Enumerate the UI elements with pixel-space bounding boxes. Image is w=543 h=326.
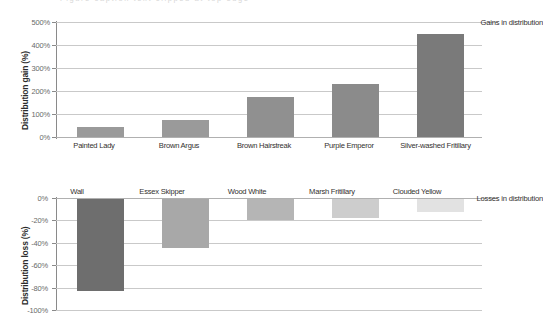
gains-plot-area xyxy=(56,22,482,138)
losses-ytick-80: -80% xyxy=(12,284,48,293)
gains-ytick-200: 200% xyxy=(14,87,50,96)
gains-legend-label: Gains in distribution xyxy=(419,18,543,27)
losses-ytick-60: -60% xyxy=(12,261,48,270)
bar-wood-white xyxy=(247,199,294,220)
gains-gridline-0 xyxy=(56,137,482,138)
gains-ytick-400: 400% xyxy=(14,41,50,50)
bar-brown-hairstreak xyxy=(247,97,294,137)
bar-wall xyxy=(77,199,124,291)
losses-ytick-40: -40% xyxy=(12,239,48,248)
bar-marsh-fritillary xyxy=(332,199,379,218)
losses-ytick-20: -20% xyxy=(12,216,48,225)
bar-painted-lady xyxy=(77,127,124,137)
bar-brown-argus xyxy=(162,120,209,137)
bar-purple-emperor xyxy=(332,84,379,137)
losses-chart-panel: Distribution loss (%) 0% -20% -40% -60% … xyxy=(0,170,543,326)
distribution-change-figure: Figure caption text clipped at top edge … xyxy=(0,0,543,326)
gains-ytick-300: 300% xyxy=(14,64,50,73)
gains-category-silver-washed-fritillary: Silver-washed Fritillary xyxy=(373,141,498,150)
bar-silver-washed-fritillary xyxy=(417,34,464,138)
gains-ytick-500: 500% xyxy=(14,18,50,27)
gains-ytick-100: 100% xyxy=(14,110,50,119)
gains-chart-panel: Distribution gain (%) 500% 400% 300% 200… xyxy=(0,0,543,170)
bar-essex-skipper xyxy=(162,199,209,248)
losses-gridline-100 xyxy=(56,310,482,311)
losses-legend-label: Losses in distribution xyxy=(419,194,543,203)
losses-ytick-100: -100% xyxy=(12,306,48,315)
losses-plot-area xyxy=(56,198,482,310)
